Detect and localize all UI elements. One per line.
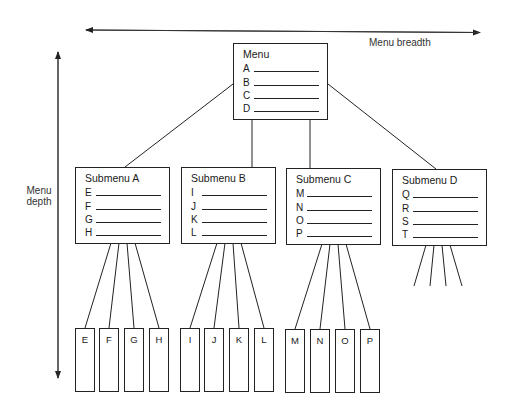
submenu-item: L	[191, 225, 267, 238]
leaf-box-e: E	[75, 328, 95, 392]
menu-breadth-label: Menu breadth	[369, 37, 431, 48]
submenu-item: F	[85, 198, 161, 211]
submenu-item: R	[402, 200, 478, 213]
menu-depth-label-line2: depth	[23, 196, 55, 207]
submenu-item: J	[191, 198, 267, 211]
submenu-item: N	[296, 199, 372, 212]
leaf-box-o: O	[335, 329, 355, 393]
submenu-c-box: Submenu C M N O P	[286, 168, 381, 245]
submenu-d-box: Submenu D Q R S T	[392, 169, 487, 246]
leaf-box-h: H	[149, 328, 169, 392]
menu-title: Menu	[243, 48, 269, 60]
submenu-b-box: Submenu B I J K L	[181, 167, 276, 244]
submenu-item: E	[85, 185, 161, 198]
submenu-item: P	[296, 226, 372, 239]
menu-depth-label-line1: Menu	[23, 185, 55, 196]
submenu-item: Q	[402, 187, 478, 200]
menu-depth-label: Menu depth	[23, 185, 55, 207]
submenu-item: H	[85, 225, 161, 238]
leaf-box-i: I	[180, 328, 200, 392]
leaf-box-k: K	[229, 328, 249, 392]
leaf-box-p: P	[360, 329, 380, 393]
menu-hierarchy-diagram: Menu breadth Menu depth Menu A B C D Sub…	[0, 0, 512, 415]
leaf-box-l: L	[254, 328, 274, 392]
menu-box: Menu A B C D	[233, 43, 328, 120]
menu-item: B	[243, 74, 319, 87]
submenu-title: Submenu A	[85, 172, 139, 184]
submenu-item: T	[402, 227, 478, 240]
menu-item: D	[243, 101, 319, 114]
submenu-title: Submenu C	[296, 173, 351, 185]
submenu-item: O	[296, 213, 372, 226]
submenu-item: I	[191, 185, 267, 198]
submenu-title: Submenu D	[402, 174, 457, 186]
menu-item: A	[243, 61, 319, 74]
submenu-item: M	[296, 186, 372, 199]
menu-item: C	[243, 88, 319, 101]
submenu-item: S	[402, 214, 478, 227]
submenu-title: Submenu B	[191, 172, 246, 184]
submenu-a-box: Submenu A E F G H	[75, 167, 170, 244]
leaf-box-g: G	[124, 328, 144, 392]
leaf-box-j: J	[204, 328, 224, 392]
leaf-box-n: N	[310, 329, 330, 393]
submenu-item: G	[85, 212, 161, 225]
submenu-item: K	[191, 212, 267, 225]
leaf-box-m: M	[285, 329, 305, 393]
leaf-box-f: F	[99, 328, 119, 392]
